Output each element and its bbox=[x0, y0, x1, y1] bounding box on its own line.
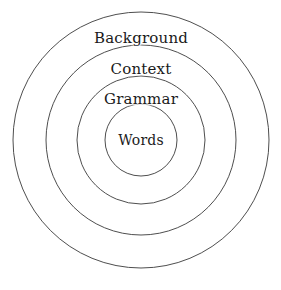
ring-label-background: Background bbox=[94, 31, 188, 46]
ring-label-context: Context bbox=[111, 62, 172, 77]
ring-label-grammar: Grammar bbox=[104, 92, 178, 107]
ring-label-words: Words bbox=[118, 133, 164, 147]
concentric-circles-diagram: Background Context Grammar Words bbox=[0, 0, 281, 290]
